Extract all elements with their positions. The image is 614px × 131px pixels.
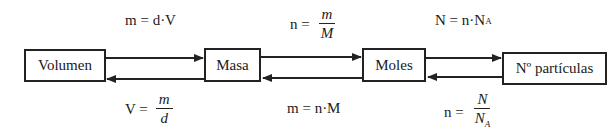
node-masa: Masa: [204, 48, 261, 82]
node-label: Moles: [375, 57, 413, 74]
formula-particles-from-moles: N = n·NA: [435, 12, 492, 29]
formula-moles-from-particles: n = N NA: [444, 91, 493, 131]
node-volumen: Volumen: [24, 49, 106, 82]
node-label: Volumen: [38, 57, 92, 74]
node-label: Masa: [216, 57, 249, 74]
fraction: N NA: [472, 91, 494, 131]
fraction: m d: [156, 91, 173, 127]
node-label: Nº partículas: [516, 60, 594, 77]
formula-mass-from-moles: m = n·M: [287, 100, 340, 117]
formula-mass-from-volume: m = d·V: [125, 12, 176, 29]
formula-moles-from-mass: n = m M: [290, 6, 336, 42]
fraction: m M: [318, 6, 337, 42]
formula-volume-from-mass: V = m d: [125, 91, 173, 127]
node-particulas: Nº partículas: [502, 52, 607, 85]
node-moles: Moles: [362, 48, 426, 82]
